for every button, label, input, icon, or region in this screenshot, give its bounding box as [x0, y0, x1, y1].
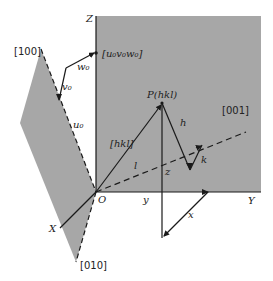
yz-plane	[96, 16, 261, 192]
z-axis-label: Z	[85, 13, 94, 24]
u0-label: u₀	[73, 119, 83, 130]
dir-001-label: [001]	[222, 105, 249, 116]
uvw-label: [u₀v₀w₀]	[102, 48, 143, 59]
z-label: z	[164, 166, 171, 177]
origin-label: O	[98, 194, 106, 205]
k-label: k	[201, 154, 207, 165]
x-component	[164, 192, 208, 236]
crystal-direction-diagram: Z Y X O [100] [010] [001] [u₀v₀w₀] [hkl]…	[0, 0, 273, 281]
uvw-point	[94, 51, 98, 55]
w0-label: w₀	[77, 61, 90, 72]
hkl-label: [hkl]	[110, 138, 134, 149]
l-label: l	[134, 160, 137, 171]
x-label: x	[188, 209, 194, 220]
oblique-plane	[20, 49, 96, 262]
diagram-canvas: Z Y X O [100] [010] [001] [u₀v₀w₀] [hkl]…	[0, 0, 273, 281]
v0-label: v₀	[62, 81, 72, 92]
dir-100-label: [100]	[14, 46, 41, 57]
h-label: h	[180, 117, 186, 128]
x-axis-label: X	[48, 223, 57, 234]
dir-010-label: [010]	[80, 260, 107, 271]
point-p-label: P(hkl)	[146, 89, 177, 100]
y-axis-label: Y	[248, 195, 256, 206]
y-label: y	[142, 194, 149, 205]
